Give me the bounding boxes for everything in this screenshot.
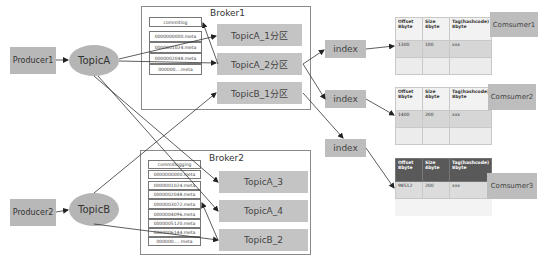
broker2-meta-file: 0000006144.meta [148, 228, 201, 237]
topic-a-node: TopicA [69, 45, 119, 76]
header-cell: Offset 8byte [396, 18, 423, 41]
table-row [396, 128, 492, 145]
header-cell: Offset 8byte [396, 159, 423, 182]
cell [450, 58, 492, 75]
broker2-title: Broker2 [209, 153, 244, 163]
broker2-meta-file: 0000000000.meta [148, 170, 201, 179]
cell [423, 199, 450, 216]
table-row: 98512 200 xxx [396, 182, 492, 199]
index-table-1: Offset 8byte Size 4byte Tag(hashcode) 8b… [395, 17, 492, 75]
broker1-meta-file: 0000001024.meta [149, 42, 202, 53]
header-cell: Offset 8byte [396, 88, 423, 111]
broker1-meta-file: 000000....meta [149, 64, 202, 75]
index-table-2: Offset 8byte Size 4byte Tag(hashcode) 8b… [395, 87, 492, 145]
producer2-box: Producer2 [10, 199, 56, 226]
cell [396, 199, 423, 216]
table-row [396, 199, 492, 216]
cell: xxx [450, 111, 492, 128]
cell [450, 199, 492, 216]
broker1-partition-topica-2: TopicA_2分区 [217, 53, 302, 75]
header-cell: Size 4byte [423, 18, 450, 41]
cell: 200 [423, 182, 450, 199]
index-table-header: Offset 8byte Size 4byte Tag(hashcode) 8b… [396, 159, 492, 182]
consumer2-box: Comsumer2 [488, 84, 536, 110]
broker1-commitlog: commitlog [149, 17, 202, 27]
cell [423, 58, 450, 75]
broker1-meta-file: 0000002048.meta [149, 53, 202, 64]
broker2-partition-topica-4: TopicA_4 [219, 200, 308, 222]
cell: 100 [423, 41, 450, 58]
producer1-box: Producer1 [10, 47, 56, 74]
table-row: 1300 100 xxx [396, 41, 492, 58]
broker1-partition-topica-1: TopicA_1分区 [217, 24, 302, 46]
index-table-header: Offset 8byte Size 4byte Tag(hashcode) 8b… [396, 88, 492, 111]
cell: xxx [450, 41, 492, 58]
table-row [396, 58, 492, 75]
cell [396, 58, 423, 75]
header-cell: Tag(hashcode) 8byte [450, 18, 492, 41]
header-cell: Size 4byte [423, 159, 450, 182]
broker2-commitlog: commitlogging [148, 160, 201, 169]
table-row: 1400 200 xxx [396, 111, 492, 128]
broker2-meta-file: 0000001024.meta [148, 181, 201, 190]
consumer3-box: Comsumer3 [487, 173, 537, 199]
cell: 98512 [396, 182, 423, 199]
cell: 200 [423, 111, 450, 128]
header-cell: Tag(hashcode) 8byte [450, 159, 492, 182]
broker2-meta-file: 0000003072.meta [148, 199, 201, 209]
cell [423, 128, 450, 145]
broker1-title: Broker1 [210, 8, 245, 18]
cell: xxx [450, 182, 492, 199]
broker2-meta-file: 0000002048.meta [148, 190, 201, 199]
consumer1-box: Comsumer1 [490, 12, 538, 37]
topic-b-node: TopicB [69, 193, 119, 226]
header-cell: Size 4byte [423, 88, 450, 111]
broker2-meta-file: 0000005120.meta [148, 219, 201, 228]
index-table-3: Offset 8byte Size 4byte Tag(hashcode) 8b… [395, 158, 492, 216]
broker1-meta-file: 0000000000.meta [149, 31, 202, 42]
broker1-partition-topicb-1: TopicB_1分区 [217, 82, 302, 104]
index-box-2: index [325, 90, 366, 108]
broker2-meta-file: 0000004096.meta [148, 209, 201, 219]
broker2-partition-topica-3: TopicA_3 [219, 171, 308, 193]
broker2-partition-topicb-2: TopicB_2 [219, 229, 308, 251]
index-box-1: index [325, 40, 366, 58]
index-table-header: Offset 8byte Size 4byte Tag(hashcode) 8b… [396, 18, 492, 41]
broker2-meta-file: 000000.... meta [148, 237, 201, 246]
index-box-3: index [325, 139, 366, 157]
header-cell: Tag(hashcode) 8byte [450, 88, 492, 111]
cell: 1400 [396, 111, 423, 128]
cell [450, 128, 492, 145]
cell: 1300 [396, 41, 423, 58]
cell [396, 128, 423, 145]
